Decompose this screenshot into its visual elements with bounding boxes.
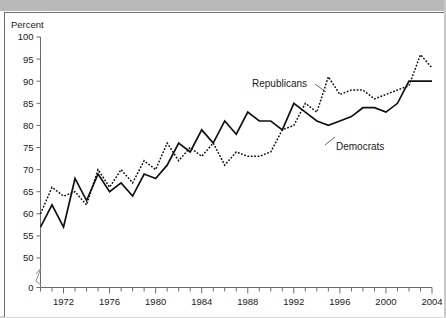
y-tick-label-90: 90 — [23, 76, 34, 87]
x-tick-label-1984: 1984 — [191, 296, 212, 307]
democrats-leader-line — [325, 137, 335, 145]
figure-root: Percent 050556065707580859095100 1972197… — [0, 0, 446, 318]
x-tick-label-2000: 2000 — [375, 296, 396, 307]
y-tick-label-85: 85 — [23, 98, 34, 109]
y-tick-label-70: 70 — [23, 164, 34, 175]
y-axis-title-group: Percent — [11, 19, 44, 30]
series-label-democrats: Democrats — [336, 141, 384, 152]
series-line-democrats — [41, 81, 433, 227]
x-tick-group: 197219761980198419881992199620002004 — [41, 288, 443, 308]
y-tick-label-95: 95 — [23, 54, 34, 65]
series-label-republicans: Republicans — [252, 78, 307, 89]
y-tick-label-100: 100 — [18, 31, 34, 42]
line-chart: Percent 050556065707580859095100 1972197… — [0, 0, 446, 318]
y-tick-label-65: 65 — [23, 186, 34, 197]
y-tick-label-0: 0 — [28, 282, 33, 293]
x-tick-label-1992: 1992 — [283, 296, 304, 307]
y-tick-group: 050556065707580859095100 — [18, 31, 41, 293]
x-tick-label-1972: 1972 — [53, 296, 74, 307]
y-axis-title: Percent — [11, 19, 44, 30]
y-tick-label-60: 60 — [23, 208, 34, 219]
x-tick-label-1996: 1996 — [329, 296, 350, 307]
x-axis: 197219761980198419881992199620002004 — [41, 288, 443, 308]
x-tick-label-1976: 1976 — [99, 296, 120, 307]
y-tick-label-55: 55 — [23, 230, 34, 241]
y-axis: 050556065707580859095100 — [18, 31, 41, 293]
x-tick-label-1980: 1980 — [145, 296, 166, 307]
annotation-group: Republicans Democrats — [252, 78, 384, 152]
y-tick-label-75: 75 — [23, 142, 34, 153]
x-tick-label-2004: 2004 — [421, 296, 442, 307]
x-tick-label-1988: 1988 — [237, 296, 258, 307]
y-tick-label-50: 50 — [23, 252, 34, 263]
y-tick-label-80: 80 — [23, 120, 34, 131]
